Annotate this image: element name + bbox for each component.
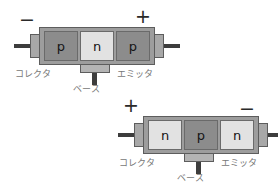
emitter-label-npn: エミッタ (221, 159, 257, 168)
device-body-npn: n p n (143, 116, 259, 154)
emitter-label-pnp: エミッタ (117, 70, 153, 79)
region-base-pnp: n (80, 31, 114, 61)
region-collector-pnp: p (44, 31, 78, 61)
base-label-npn: ベース (177, 174, 204, 183)
base-tab-pnp (80, 64, 110, 73)
polarity-sign-left-npn: + (123, 96, 139, 115)
base-lead-npn (196, 161, 201, 174)
emitter-cap-pnp (154, 34, 164, 58)
emitter-cap-npn (258, 123, 268, 147)
emitter-lead-pnp (162, 44, 180, 48)
polarity-sign-left-pnp: − (19, 10, 35, 29)
polarity-sign-right-pnp: + (135, 7, 151, 26)
device-body-pnp: p n p (39, 27, 155, 65)
region-collector-npn: n (148, 120, 182, 150)
region-base-npn: p (184, 120, 218, 150)
diagram-canvas: − + p n p コレクタ ベース エミッタ + − n p n (0, 0, 278, 192)
base-label-pnp: ベース (73, 85, 100, 94)
region-emitter-npn: n (220, 120, 254, 150)
region-emitter-pnp: p (116, 31, 150, 61)
collector-label-npn: コレクタ (119, 159, 155, 168)
collector-label-pnp: コレクタ (15, 70, 51, 79)
base-tab-npn (184, 153, 214, 162)
base-lead-pnp (92, 72, 97, 85)
